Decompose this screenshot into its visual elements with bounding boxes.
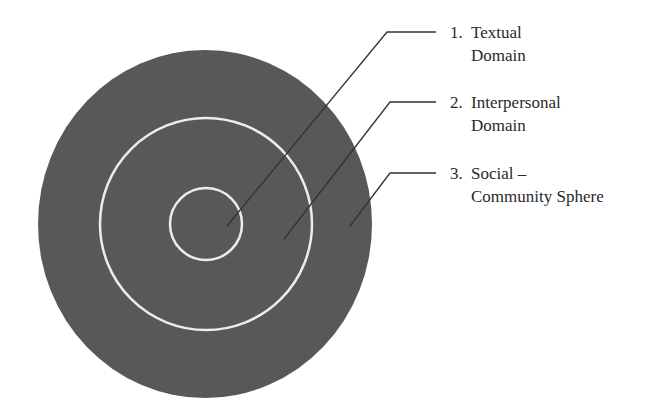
- label-line2: Community Sphere: [450, 185, 604, 208]
- label-social-community-sphere: 3.Social – Community Sphere: [450, 162, 604, 208]
- label-interpersonal-domain: 2.Interpersonal Domain: [450, 91, 561, 137]
- label-textual-domain: 1.Textual Domain: [450, 21, 526, 67]
- label-number: 2.: [450, 91, 471, 114]
- label-line1: Social –: [471, 164, 526, 183]
- label-line1: Textual: [471, 23, 522, 42]
- label-line2: Domain: [450, 114, 561, 137]
- label-number: 1.: [450, 21, 471, 44]
- outer-sphere-disc: [38, 50, 372, 398]
- label-line2: Domain: [450, 44, 526, 67]
- label-line1: Interpersonal: [471, 93, 561, 112]
- label-number: 3.: [450, 162, 471, 185]
